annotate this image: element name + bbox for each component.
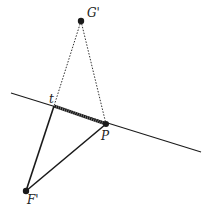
label-g: G' <box>87 6 100 20</box>
point-g <box>78 18 84 24</box>
diagram-canvas: G' t P F' <box>0 0 209 215</box>
point-p <box>103 121 109 127</box>
dotted-line-g-to-t <box>54 21 81 106</box>
label-t: t <box>49 92 54 106</box>
dotted-line-g-to-p <box>81 21 106 124</box>
line-f-to-p <box>26 124 106 191</box>
label-f: F' <box>26 193 39 207</box>
label-p: P <box>100 129 110 143</box>
